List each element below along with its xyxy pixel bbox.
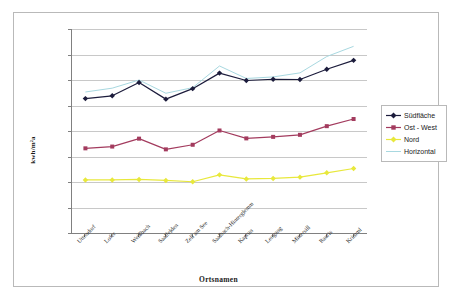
data-point <box>110 93 115 98</box>
legend-swatch-icon <box>385 122 402 133</box>
data-point <box>190 86 195 91</box>
data-point <box>271 135 275 139</box>
y-axis-tick-mark <box>68 131 71 132</box>
chart-frame: kwh/m²a 0100200300400500600700800 Uttend… <box>13 12 439 287</box>
y-axis-tick-mark <box>68 80 71 81</box>
data-point <box>244 176 249 181</box>
data-point <box>191 143 195 147</box>
data-point <box>298 133 302 137</box>
y-axis-tick-mark <box>68 106 71 107</box>
data-point <box>297 77 302 82</box>
series-nord <box>83 166 357 185</box>
legend-item-horizontal: Horizontal <box>385 145 443 157</box>
data-point <box>163 96 168 101</box>
data-point <box>217 70 222 75</box>
plot-area <box>71 29 367 234</box>
y-axis-tick-mark <box>68 182 71 183</box>
data-point <box>270 176 275 181</box>
y-axis-title: kwh/m²a <box>29 136 37 164</box>
legend-item-label: Ost - West <box>402 124 437 131</box>
data-point <box>163 178 168 183</box>
data-point <box>190 179 195 184</box>
data-point <box>351 58 356 63</box>
data-point <box>351 166 356 171</box>
data-point <box>324 67 329 72</box>
legend-swatch-icon <box>385 134 402 145</box>
data-point <box>83 146 87 150</box>
y-axis-tick-mark <box>68 208 71 209</box>
data-point <box>324 170 329 175</box>
legend-item-ost-west: Ost - West <box>385 121 443 133</box>
x-axis-title: Ortsnamen <box>71 275 366 284</box>
legend-item-label: Horizontal <box>402 148 436 155</box>
data-point <box>218 128 222 132</box>
series-lines <box>72 29 367 233</box>
data-point <box>244 136 248 140</box>
legend-item-s-dfl-che: Südfläche <box>385 109 443 121</box>
legend-swatch-icon <box>385 110 402 121</box>
chart-figure: kwh/m²a 0100200300400500600700800 Uttend… <box>0 0 452 302</box>
series-ost-west <box>83 117 355 151</box>
legend-item-label: Südfläche <box>402 112 435 119</box>
data-point <box>137 137 141 141</box>
series-line <box>85 119 353 149</box>
series-s-dfl-che <box>83 58 357 102</box>
data-point <box>83 96 88 101</box>
data-point <box>325 124 329 128</box>
data-point <box>83 177 88 182</box>
y-axis-tick-mark <box>68 233 71 234</box>
legend-item-label: Nord <box>402 136 419 143</box>
y-axis-tick-mark <box>68 157 71 158</box>
data-point <box>297 174 302 179</box>
y-axis-tick-mark <box>68 55 71 56</box>
series-horizontal <box>85 46 353 93</box>
data-point <box>217 172 222 177</box>
y-axis-tick-mark <box>68 29 71 30</box>
data-point <box>164 147 168 151</box>
data-point <box>110 177 115 182</box>
chart-legend: SüdflächeOst - WestNordHorizontal <box>381 105 447 162</box>
data-point <box>136 177 141 182</box>
legend-swatch-icon <box>385 146 402 157</box>
legend-item-nord: Nord <box>385 133 443 145</box>
data-point <box>352 117 356 121</box>
data-point <box>110 145 114 149</box>
series-line <box>85 46 353 93</box>
